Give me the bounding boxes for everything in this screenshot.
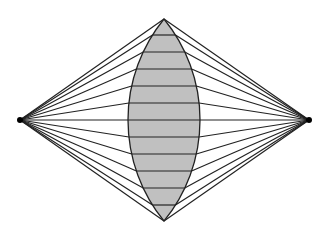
lens-ray-diagram [0, 0, 326, 239]
ray-line [196, 120, 309, 154]
ray-line [20, 69, 136, 120]
ray-line [192, 120, 309, 171]
ray-line [20, 86, 132, 120]
ray-line [192, 69, 309, 120]
ray-line [20, 120, 136, 171]
ray-line [20, 120, 132, 154]
left-focal-point [17, 117, 23, 123]
right-focal-point [306, 117, 312, 123]
ray-line [196, 86, 309, 120]
